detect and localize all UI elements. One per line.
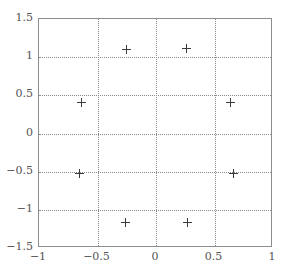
y-tick-label: 0.5 [0,88,33,99]
x-tick-label: 1 [269,251,276,262]
data-point [121,218,130,227]
data-point [182,44,191,53]
y-tick-label: 1.5 [0,12,33,23]
gridline-y-4 [39,95,271,96]
x-tick-label: 0 [152,251,159,262]
scatter-plot-figure: −1.5−1−0.500.511.5 −1−0.500.51 [0,0,285,273]
gridline-x-1 [98,19,99,246]
y-tick-label: 1 [0,50,33,61]
y-tick-label: −1.5 [0,241,33,252]
gridline-x-2 [156,19,157,246]
x-tick-label: −1 [30,251,46,262]
gridline-x-3 [215,19,216,246]
gridline-y-2 [39,172,271,173]
data-point [226,98,235,107]
plot-area [38,18,272,247]
data-point [183,218,192,227]
gridline-y-1 [39,210,271,211]
data-point [77,98,86,107]
gridline-y-5 [39,57,271,58]
y-tick-label: 0 [0,127,33,138]
data-point [229,169,238,178]
x-tick-label: −0.5 [83,251,110,262]
data-point [75,169,84,178]
y-tick-label: −0.5 [0,165,33,176]
gridline-y-3 [39,134,271,135]
y-tick-label: −1 [0,203,33,214]
x-tick-label: 0.5 [205,251,223,262]
data-point [122,45,131,54]
